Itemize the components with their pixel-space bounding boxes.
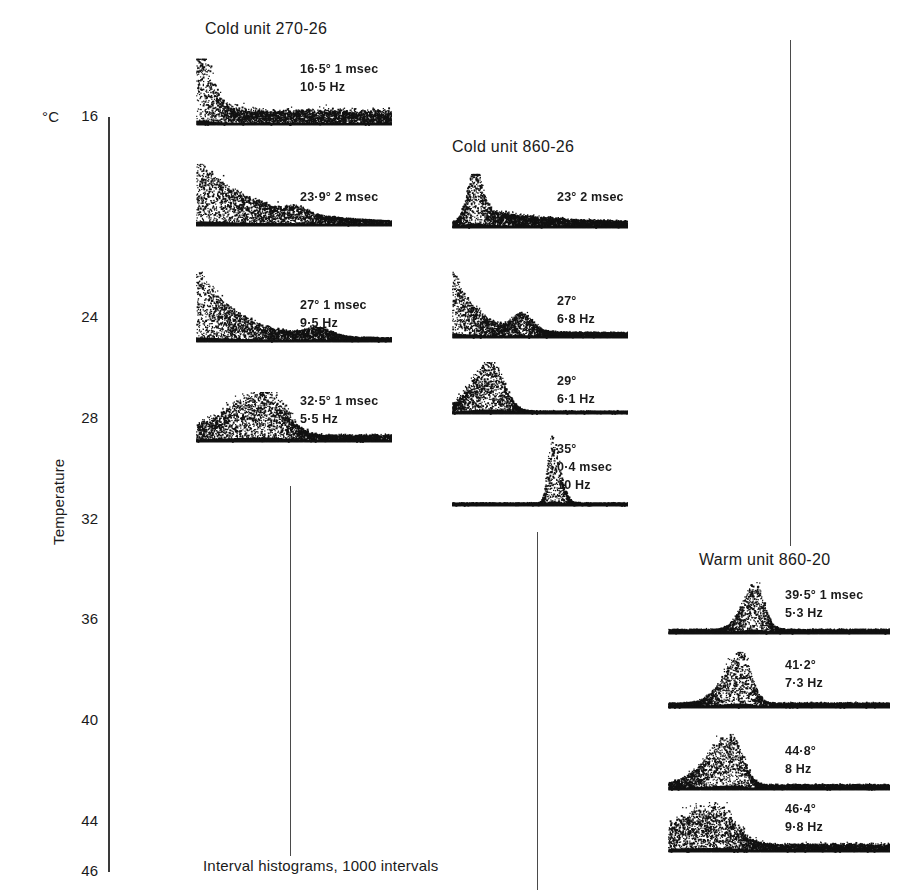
histogram-label-panel-44-8: 44·8°8 Hz (785, 742, 816, 778)
axis-tick-46: 46 (38, 862, 98, 879)
axis-tick-24: 24 (38, 308, 98, 325)
histogram-label-panel-41-2: 41·2°7·3 Hz (785, 656, 823, 692)
histogram-plot-panel-41-2 (668, 648, 890, 710)
histogram-label-line: 32·5° 1 msec (300, 392, 378, 410)
histogram-label-panel-29: 29°6·1 Hz (557, 372, 595, 408)
axis-tick-32: 32 (38, 510, 98, 527)
axis-title: Temperature (50, 459, 67, 545)
histogram-panel-46-4 (668, 798, 890, 854)
axis-tick-16: 16 (38, 107, 98, 124)
separator-1 (290, 486, 291, 856)
histogram-label-line: 16·5° 1 msec (300, 60, 378, 78)
histogram-label-panel-27b: 27°6·8 Hz (557, 292, 595, 328)
histogram-label-line: 41·2° (785, 656, 823, 674)
separator-2 (537, 532, 538, 890)
histogram-label-panel-23: 23° 2 msec (557, 188, 624, 206)
figure-caption: Interval histograms, 1000 intervals (203, 857, 438, 874)
histogram-label-line: 23·9° 2 msec (300, 188, 378, 206)
histogram-plot-panel-44-8 (668, 730, 890, 792)
histogram-label-line: 29° (557, 372, 595, 390)
histogram-label-panel-16-5: 16·5° 1 msec10·5 Hz (300, 60, 378, 96)
axis-tick-28: 28 (38, 409, 98, 426)
histogram-label-line: 8 Hz (785, 760, 816, 778)
histogram-label-line: 23° 2 msec (557, 188, 624, 206)
histogram-label-line: 9·8 Hz (785, 818, 823, 836)
histogram-plot-panel-27b (452, 268, 628, 340)
histogram-label-line: 5·5 Hz (300, 410, 378, 428)
histogram-label-line: 6·8 Hz (557, 310, 595, 328)
histogram-label-line: 5·3 Hz (785, 604, 863, 622)
column-title-warm-unit-860-20: Warm unit 860-20 (699, 551, 830, 569)
histogram-label-panel-32-5: 32·5° 1 msec5·5 Hz (300, 392, 378, 428)
interval-histogram-figure: °C Temperature 1624283236404446 Cold uni… (0, 0, 901, 892)
histogram-label-line: 10·5 Hz (300, 78, 378, 96)
histogram-label-line: 10 Hz (557, 476, 612, 494)
histogram-panel-29 (452, 358, 628, 416)
histogram-label-panel-35: 35°0·4 msec10 Hz (557, 440, 612, 494)
histogram-label-line: 7·3 Hz (785, 674, 823, 692)
histogram-label-line: 27° 1 msec (300, 296, 367, 314)
axis-tick-36: 36 (38, 610, 98, 627)
histogram-label-panel-39-5: 39·5° 1 msec5·3 Hz (785, 586, 863, 622)
histogram-label-panel-27: 27° 1 msec9·5 Hz (300, 296, 367, 332)
histogram-label-line: 9·5 Hz (300, 314, 367, 332)
histogram-label-line: 39·5° 1 msec (785, 586, 863, 604)
histogram-label-line: 27° (557, 292, 595, 310)
histogram-label-panel-23-9: 23·9° 2 msec (300, 188, 378, 206)
histogram-plot-panel-29 (452, 358, 628, 416)
histogram-label-line: 44·8° (785, 742, 816, 760)
histogram-label-line: 35° (557, 440, 612, 458)
column-title-cold-unit-270-26: Cold unit 270-26 (205, 20, 327, 38)
histogram-label-line: 46·4° (785, 800, 823, 818)
histogram-label-line: 6·1 Hz (557, 390, 595, 408)
axis-tick-44: 44 (38, 812, 98, 829)
histogram-panel-27b (452, 268, 628, 340)
separator-3 (790, 40, 791, 546)
histogram-label-panel-46-4: 46·4°9·8 Hz (785, 800, 823, 836)
histogram-panel-41-2 (668, 648, 890, 710)
histogram-panel-44-8 (668, 730, 890, 792)
histogram-label-line: 0·4 msec (557, 458, 612, 476)
column-title-cold-unit-860-26: Cold unit 860-26 (452, 138, 574, 156)
histogram-plot-panel-46-4 (668, 798, 890, 854)
temperature-axis-line (108, 117, 110, 872)
axis-tick-40: 40 (38, 711, 98, 728)
